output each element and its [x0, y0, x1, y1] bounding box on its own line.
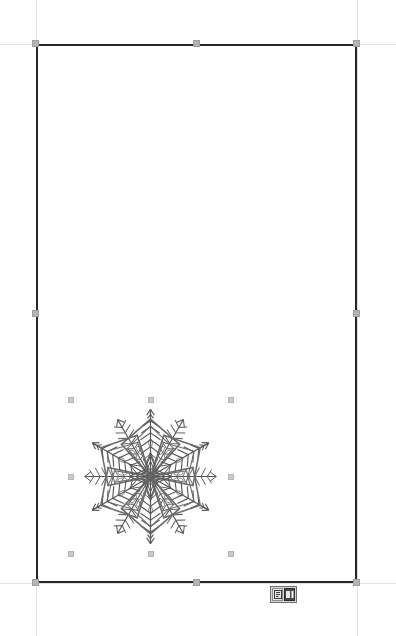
- img-handle-top-center[interactable]: [148, 397, 154, 403]
- anchor-page-icon: [286, 590, 294, 599]
- snowflake-icon: [71, 400, 230, 553]
- floating-object-toolbar[interactable]: Wrap Text To Page: [270, 586, 297, 603]
- handle-bottom-left[interactable]: [32, 579, 39, 586]
- handle-top-center[interactable]: [193, 40, 200, 47]
- img-handle-middle-right[interactable]: [228, 474, 234, 480]
- handle-top-right[interactable]: [353, 40, 360, 47]
- anchor-page-button[interactable]: To Page: [284, 588, 295, 601]
- guide-vertical-right: [357, 0, 358, 636]
- img-handle-top-left[interactable]: [68, 397, 74, 403]
- img-handle-top-right[interactable]: [228, 397, 234, 403]
- img-handle-middle-left[interactable]: [68, 474, 74, 480]
- handle-bottom-right[interactable]: [353, 579, 360, 586]
- text-wrap-button[interactable]: Wrap Text: [272, 588, 283, 601]
- img-handle-bottom-left[interactable]: [68, 551, 74, 557]
- handle-top-left[interactable]: [32, 40, 39, 47]
- snowflake-image[interactable]: Six-pointed decorative snowflake line ar…: [71, 400, 230, 553]
- img-handle-bottom-center[interactable]: [148, 551, 154, 557]
- handle-bottom-center[interactable]: [193, 579, 200, 586]
- text-wrap-icon: [274, 590, 282, 599]
- handle-middle-left[interactable]: [32, 310, 39, 317]
- editor-canvas[interactable]: Six-pointed decorative snowflake line ar…: [0, 0, 396, 636]
- img-handle-bottom-right[interactable]: [228, 551, 234, 557]
- handle-middle-right[interactable]: [353, 310, 360, 317]
